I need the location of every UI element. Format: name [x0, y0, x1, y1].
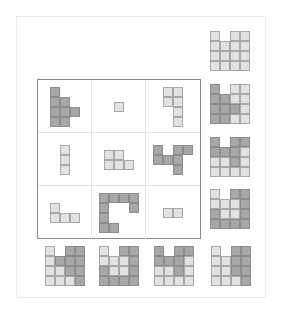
square	[230, 114, 240, 124]
square	[241, 266, 251, 276]
square	[60, 213, 70, 223]
square	[231, 266, 241, 276]
square	[154, 266, 164, 276]
answer-option[interactable]	[211, 246, 251, 286]
square	[99, 256, 109, 266]
square	[50, 213, 60, 223]
square	[173, 117, 183, 127]
answer-option[interactable]	[154, 246, 194, 286]
square	[221, 266, 231, 276]
square	[220, 41, 230, 51]
square	[210, 199, 220, 209]
square	[240, 147, 250, 157]
square	[119, 193, 129, 203]
square	[210, 41, 220, 51]
square	[65, 276, 75, 286]
square	[154, 246, 164, 256]
answer-option[interactable]	[210, 137, 250, 177]
square	[114, 160, 124, 170]
square	[99, 203, 109, 213]
square	[210, 104, 220, 114]
square	[153, 145, 163, 155]
square	[230, 61, 240, 71]
square	[183, 145, 193, 155]
square	[240, 167, 250, 177]
square	[109, 256, 119, 266]
square	[153, 155, 163, 165]
square	[99, 276, 109, 286]
square	[240, 51, 250, 61]
answer-option[interactable]	[45, 246, 85, 286]
square	[210, 189, 220, 199]
square	[60, 107, 70, 117]
square	[174, 266, 184, 276]
square	[129, 193, 139, 203]
square	[104, 160, 114, 170]
square	[240, 94, 250, 104]
square	[240, 157, 250, 167]
square	[60, 165, 70, 175]
square	[109, 266, 119, 276]
square	[184, 276, 194, 286]
square	[220, 199, 230, 209]
square	[220, 157, 230, 167]
square	[210, 114, 220, 124]
square	[210, 147, 220, 157]
square	[55, 266, 65, 276]
square	[173, 97, 183, 107]
square	[119, 276, 129, 286]
square	[173, 145, 183, 155]
square	[230, 157, 240, 167]
square	[220, 219, 230, 229]
answer-option[interactable]	[210, 84, 250, 124]
square	[211, 276, 221, 286]
square	[60, 155, 70, 165]
square	[163, 155, 173, 165]
square	[75, 256, 85, 266]
square	[240, 84, 250, 94]
puzzle-matrix	[37, 79, 201, 239]
matrix-cell	[92, 186, 146, 239]
square	[220, 114, 230, 124]
square	[50, 117, 60, 127]
square	[220, 51, 230, 61]
square	[230, 167, 240, 177]
answer-option[interactable]	[99, 246, 139, 286]
square	[184, 256, 194, 266]
square	[114, 150, 124, 160]
square	[99, 193, 109, 203]
square	[99, 266, 109, 276]
square	[241, 246, 251, 256]
square	[220, 61, 230, 71]
square	[210, 31, 220, 41]
square	[210, 61, 220, 71]
answer-option[interactable]	[210, 189, 250, 229]
square	[240, 199, 250, 209]
matrix-cell	[146, 80, 200, 133]
square	[220, 147, 230, 157]
square	[240, 104, 250, 114]
square	[230, 147, 240, 157]
square	[119, 246, 129, 256]
square	[220, 94, 230, 104]
square	[231, 246, 241, 256]
matrix-cell	[92, 133, 146, 186]
square	[211, 256, 221, 266]
square	[230, 31, 240, 41]
square	[50, 97, 60, 107]
matrix-cell	[38, 186, 92, 239]
square	[221, 256, 231, 266]
square	[184, 246, 194, 256]
square	[230, 209, 240, 219]
square	[154, 256, 164, 266]
square	[230, 137, 240, 147]
square	[173, 165, 183, 175]
square	[173, 208, 183, 218]
square	[129, 276, 139, 286]
square	[240, 114, 250, 124]
square	[230, 41, 240, 51]
square	[210, 219, 220, 229]
square	[129, 203, 139, 213]
answer-option[interactable]	[210, 31, 250, 71]
square	[184, 266, 194, 276]
